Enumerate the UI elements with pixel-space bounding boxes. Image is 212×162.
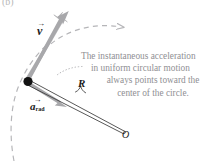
acceleration-vector-label: → arad [30, 98, 45, 112]
caption-line: always points toward the [79, 74, 211, 86]
acceleration-symbol: arad [30, 101, 45, 112]
acceleration-vector-head [55, 100, 67, 107]
panel-letter: (b) [2, 0, 14, 7]
center-label: O [122, 129, 129, 140]
caption-line: The instantaneous acceleration [79, 50, 211, 62]
caption-line: center of the circle. [79, 87, 211, 99]
caption-text-block: The instantaneous acceleration in unifor… [79, 50, 211, 99]
acceleration-symbol-subscript: rad [36, 106, 45, 112]
velocity-vector-label: → v [37, 22, 45, 37]
caption-line: in uniform circular motion [79, 62, 211, 74]
figure-uniform-circular-motion: (b) → v → arad R O The instantaneous acc… [0, 0, 212, 162]
acceleration-symbol-base: a [30, 100, 36, 112]
particle-dot [23, 77, 32, 86]
